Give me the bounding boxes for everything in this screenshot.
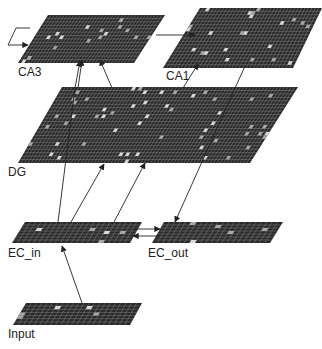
arrow-dg-to-ca3: [100, 60, 112, 88]
arrow-ca3-to-ca3: [8, 28, 30, 45]
layer-label-ec_in: EC_in: [8, 247, 41, 259]
layer-label-dg: DG: [8, 166, 26, 178]
layer-ca1: [163, 8, 322, 68]
layer-input: [13, 303, 142, 325]
connections-group: [8, 28, 245, 303]
arrow-input-to-ec_in: [62, 246, 82, 303]
arrow-ec_in-to-dg: [71, 164, 104, 222]
layers-group: [12, 8, 322, 325]
layer-ec_in: [12, 222, 142, 243]
layer-label-ca3: CA3: [18, 66, 41, 78]
layer-ca3: [18, 15, 165, 63]
layer-label-ec_out: EC_out: [148, 247, 188, 259]
hippocampus-network-diagram: [0, 0, 322, 349]
layer-dg: [18, 87, 298, 163]
arrow-ec_in-to-ca1: [114, 163, 145, 222]
layer-label-input: Input: [8, 328, 35, 340]
layer-label-ca1: CA1: [166, 70, 189, 82]
arrow-dg-to-ca3: [78, 60, 82, 88]
layer-ec_out: [152, 222, 283, 243]
